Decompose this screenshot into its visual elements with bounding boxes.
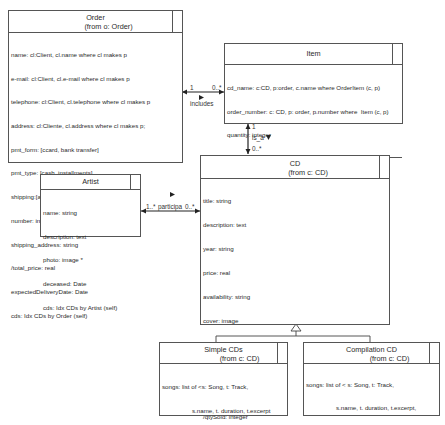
attr: e-mail: cl:Client, cl.e-mail where cl ma… — [11, 75, 180, 83]
attr: cover: image — [203, 317, 387, 325]
class-simple-cds-header: Simple CDs (from c: CD) — [160, 343, 287, 364]
header-tab — [130, 175, 140, 189]
attr: name: cl:Client, cl.name where cl makes … — [11, 51, 180, 59]
attr: quantity: integer — [227, 131, 400, 139]
class-compilation-cd[interactable]: Compilation CD (from c: CD) songs: list … — [303, 342, 440, 416]
class-compilation-cd-attributes: songs: list of < s: Song, t: Track, s.na… — [304, 364, 439, 425]
class-simple-cds-from: (from c: CD) — [160, 354, 287, 363]
attr: description: text — [203, 221, 387, 229]
includes-mult-item: 0..* — [212, 84, 222, 91]
class-item[interactable]: Item cd_name: c:CD, p:order, c.name wher… — [224, 43, 403, 124]
class-artist-name: Artist — [41, 175, 140, 188]
class-simple-cds-attributes: songs: list of <s: Song, t: Track, s.nam… — [160, 364, 287, 425]
attr: title: string — [203, 197, 387, 205]
class-cd[interactable]: CD (from c: CD) title: string descriptio… — [200, 155, 390, 325]
header-tab — [277, 343, 287, 363]
includes-mult-order: 1 — [190, 84, 194, 91]
class-cd-name: CD — [201, 159, 389, 168]
class-order[interactable]: Order (from o: Order) name: cl:Client, c… — [8, 10, 183, 163]
class-order-header: Order (from o: Order) — [9, 11, 182, 33]
class-compilation-cd-name: Compilation CD — [304, 345, 439, 354]
attr: availability: string — [203, 293, 387, 301]
attr: telephone: cl:Client, cl.telephone where… — [11, 98, 180, 106]
attr: cds: Idx CDs by Artist (self) — [43, 304, 138, 312]
attr: photo: image * — [43, 256, 138, 264]
class-artist-attributes: name: string description: text photo: im… — [41, 190, 140, 329]
class-cd-from: (from c: CD) — [201, 168, 389, 177]
attr: songs: list of < s: Song, t: Track, — [306, 381, 437, 389]
header-tab — [379, 156, 389, 178]
attr: songs: list of <s: Song, t: Track, — [162, 383, 285, 391]
attr: pmt_form: [ccard, bank transfer] — [11, 146, 180, 154]
class-artist[interactable]: Artist name: string description: text ph… — [40, 174, 141, 237]
header-tab — [172, 11, 182, 32]
attr: name: string — [43, 209, 138, 217]
class-item-header: Item — [225, 44, 402, 65]
attr: cd_name: c:CD, p:order, c.name where Ord… — [227, 84, 400, 92]
class-order-from: (from o: Order) — [9, 22, 182, 31]
attr: deceased: Date — [43, 280, 138, 288]
attr: address: cl:Cliente, cl.address where cl… — [11, 122, 180, 130]
attr: price: real — [203, 269, 387, 277]
attr: s.name, t. duration, t.excerpt, — [306, 404, 437, 412]
class-compilation-cd-from: (from c: CD) — [304, 354, 439, 363]
class-order-name: Order — [9, 13, 182, 22]
header-tab — [429, 343, 439, 363]
class-simple-cds[interactable]: Simple CDs (from c: CD) songs: list of <… — [159, 342, 288, 416]
class-item-name: Item — [225, 44, 402, 63]
class-item-attributes: cd_name: c:CD, p:order, c.name where Ord… — [225, 65, 402, 157]
includes-label: includes — [190, 100, 213, 107]
class-artist-header: Artist — [41, 175, 140, 190]
class-cd-header: CD (from c: CD) — [201, 156, 389, 179]
header-tab — [392, 44, 402, 64]
attr: year: string — [203, 245, 387, 253]
attr: description: text — [43, 233, 138, 241]
attr: order_number: c: CD, p: order, p.number … — [227, 108, 400, 116]
class-compilation-cd-header: Compilation CD (from c: CD) — [304, 343, 439, 364]
class-simple-cds-name: Simple CDs — [160, 345, 287, 354]
attr: s.name, t. duration, t.excerpt — [162, 407, 285, 415]
participa-mult-cd: 0..* — [185, 203, 195, 210]
